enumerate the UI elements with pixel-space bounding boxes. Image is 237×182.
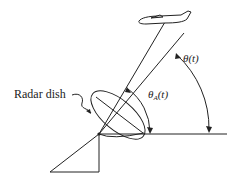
theta-arrowhead-bottom xyxy=(206,126,212,133)
theta-a-argument: (t) xyxy=(158,88,168,100)
radar-tracking-diagram: Radar dish θA(t) θ(t) xyxy=(0,0,237,182)
antenna-axis-line xyxy=(99,22,165,134)
theta-a-label: θA(t) xyxy=(148,88,168,102)
dish-support-base xyxy=(50,134,99,172)
theta-arrowhead-top xyxy=(175,53,181,59)
theta-angle-arc xyxy=(177,55,209,130)
theta-a-arrowhead-bottom xyxy=(147,127,153,134)
aircraft-icon xyxy=(139,11,191,24)
theta-label: θ(t) xyxy=(183,52,199,64)
pivot-point xyxy=(97,132,100,135)
radar-dish-label: Radar dish xyxy=(14,87,66,102)
